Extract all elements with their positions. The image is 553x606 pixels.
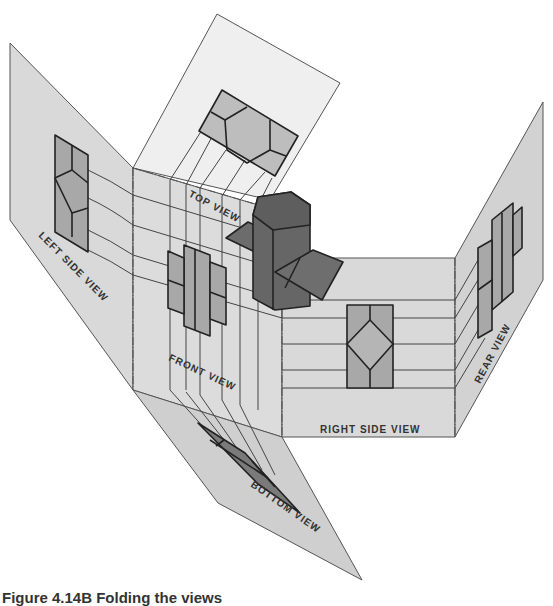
figure-caption: Figure 4.14B Folding the views [2, 589, 222, 606]
left-side-view-shape [55, 135, 88, 252]
right-side-view-label: RIGHT SIDE VIEW [320, 424, 421, 435]
right-side-view-shape [347, 305, 393, 388]
